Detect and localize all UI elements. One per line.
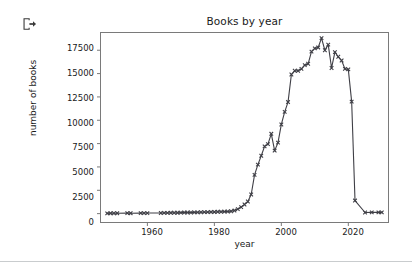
chart-figure: Books by year number of books year 0 250… [0, 0, 412, 248]
plot-area [0, 0, 412, 248]
axes-frame [101, 33, 389, 223]
series-markers [105, 36, 383, 215]
series-line [107, 38, 382, 213]
tick-marks [97, 50, 348, 226]
screenshot-root: Books by year number of books year 0 250… [0, 0, 412, 271]
page-bottom-fill [0, 262, 412, 271]
page-bottom-rule [0, 261, 412, 262]
